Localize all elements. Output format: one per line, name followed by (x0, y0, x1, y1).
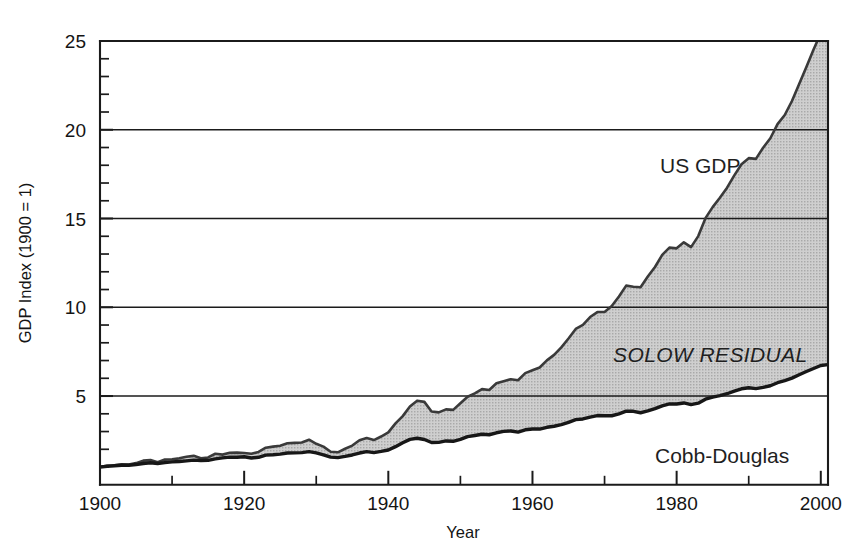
y-axis-title: GDP Index (1900 = 1) (16, 183, 34, 344)
chart-canvas: 5 10 15 20 25 1900 1920 1940 1960 1980 2… (0, 0, 856, 551)
gdp-solow-residual-chart: 5 10 15 20 25 1900 1920 1940 1960 1980 2… (0, 0, 856, 551)
x-tick-label-1940: 1940 (367, 493, 409, 514)
x-tick-label-2000: 2000 (800, 493, 842, 514)
annotation-cobb-douglas: Cobb-Douglas (655, 444, 789, 467)
annotation-us-gdp: US GDP (660, 154, 741, 177)
x-axis-title: Year (446, 523, 480, 541)
y-tick-label-25: 25 (65, 31, 86, 52)
y-tick-label-10: 10 (65, 297, 86, 318)
y-tick-label-20: 20 (65, 120, 86, 141)
x-tick-label-1960: 1960 (511, 493, 553, 514)
annotation-solow-residual: SOLOW RESIDUAL (613, 343, 808, 366)
y-tick-label-15: 15 (65, 209, 86, 230)
x-tick-label-1980: 1980 (655, 493, 697, 514)
x-tick-label-1920: 1920 (223, 493, 265, 514)
y-tick-label-5: 5 (75, 386, 86, 407)
x-tick-label-1900: 1900 (79, 493, 121, 514)
